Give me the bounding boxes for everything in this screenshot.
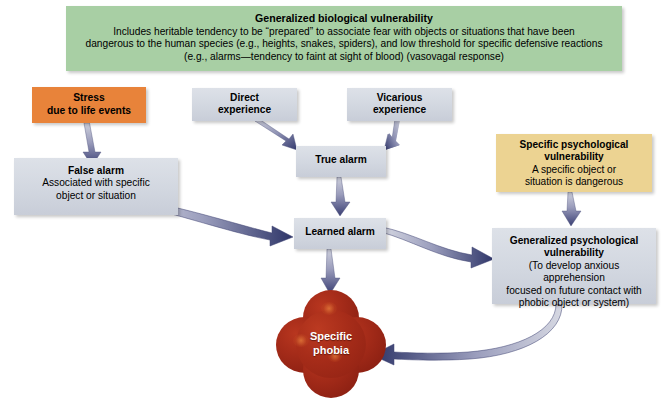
specific-psychological-vulnerability-line1: A specific object or bbox=[500, 164, 648, 176]
node-specific-psychological-vulnerability: Specific psychological vulnerability A s… bbox=[496, 134, 652, 192]
specific-psychological-vulnerability-line2: situation is dangerous bbox=[500, 176, 648, 188]
node-generalized-biological-vulnerability: Generalized biological vulnerability Inc… bbox=[66, 6, 622, 71]
generalized-biological-vulnerability-line1: Includes heritable tendency to be “prepa… bbox=[74, 26, 614, 38]
false-alarm-line2: object or situation bbox=[18, 190, 174, 202]
node-direct-experience: Direct experience bbox=[192, 88, 297, 121]
generalized-psychological-vulnerability-line1: (To develop anxious apprehension bbox=[497, 260, 651, 285]
specific-phobia-line2: phobia bbox=[313, 344, 349, 356]
stress-line2: due to life events bbox=[36, 105, 142, 118]
stress-line1: Stress bbox=[36, 92, 142, 105]
node-generalized-psychological-vulnerability: Generalized psychological vulnerability … bbox=[492, 228, 656, 304]
arrow-specific-psychological-vulnerability-to-generalized-psychological-vulnerability bbox=[562, 192, 581, 226]
vicarious-experience-line2: experience bbox=[349, 104, 450, 116]
node-stress: Stress due to life events bbox=[32, 87, 146, 123]
true-alarm-title: True alarm bbox=[298, 154, 384, 166]
node-specific-phobia: Specific phobia bbox=[276, 290, 386, 398]
generalized-psychological-vulnerability-title2: vulnerability bbox=[497, 247, 651, 259]
node-false-alarm: False alarm Associated with specific obj… bbox=[14, 158, 178, 215]
generalized-psychological-vulnerability-title1: Generalized psychological bbox=[497, 235, 651, 247]
false-alarm-title: False alarm bbox=[18, 165, 174, 177]
generalized-biological-vulnerability-line3: (e.g., alarms—tendency to faint at sight… bbox=[74, 51, 614, 63]
generalized-psychological-vulnerability-line2: focused on future contact with bbox=[497, 285, 651, 297]
generalized-biological-vulnerability-line2: dangerous to the human species (e.g., he… bbox=[74, 38, 614, 50]
arrow-learned-alarm-to-generalized-psychological-vulnerability bbox=[381, 227, 494, 268]
arrow-direct-experience-to-true-alarm bbox=[255, 119, 297, 150]
learned-alarm-title: Learned alarm bbox=[296, 226, 384, 238]
arrow-true-alarm-to-learned-alarm bbox=[331, 177, 350, 216]
specific-psychological-vulnerability-title2: vulnerability bbox=[500, 151, 648, 163]
node-learned-alarm: Learned alarm bbox=[294, 218, 386, 249]
node-vicarious-experience: Vicarious experience bbox=[347, 88, 452, 121]
arrow-vicarious-experience-to-true-alarm bbox=[384, 118, 400, 150]
generalized-psychological-vulnerability-line3: phobic object or system) bbox=[497, 297, 651, 309]
false-alarm-line1: Associated with specific bbox=[18, 177, 174, 189]
specific-phobia-label: Specific phobia bbox=[276, 330, 386, 358]
arrow-generalized-psychological-vulnerability-to-specific-phobia bbox=[372, 304, 562, 365]
vicarious-experience-line1: Vicarious bbox=[349, 92, 450, 104]
specific-phobia-line1: Specific bbox=[310, 330, 352, 342]
node-true-alarm: True alarm bbox=[296, 146, 386, 177]
specific-phobia-etiology-diagram: Generalized biological vulnerability Inc… bbox=[0, 0, 670, 408]
specific-psychological-vulnerability-title1: Specific psychological bbox=[500, 139, 648, 151]
direct-experience-line2: experience bbox=[194, 104, 295, 116]
direct-experience-line1: Direct bbox=[194, 92, 295, 104]
generalized-biological-vulnerability-title: Generalized biological vulnerability bbox=[74, 12, 614, 25]
arrow-learned-alarm-to-specific-phobia bbox=[321, 249, 340, 294]
phobia-highlight-top bbox=[321, 302, 337, 315]
